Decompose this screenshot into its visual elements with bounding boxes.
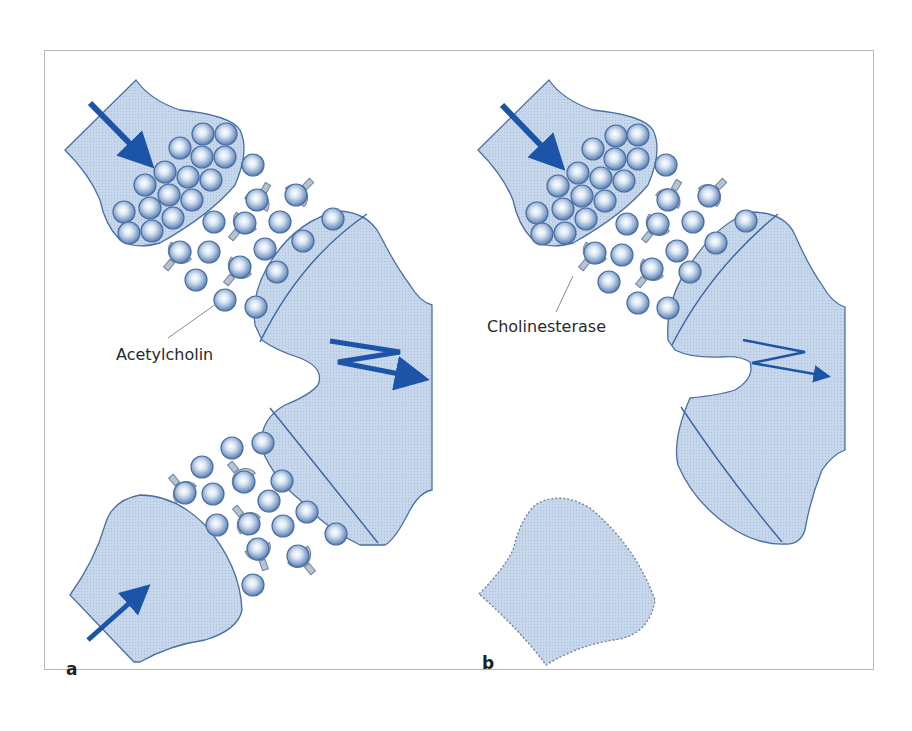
panel-b: Cholinesterase b (478, 80, 845, 673)
panel-letter-a: a (66, 659, 77, 679)
acetylcholin-leader-line (168, 304, 216, 338)
panel-a: Acetylcholin a (65, 80, 432, 679)
synapse-diagram: Acetylcholin a (0, 0, 912, 731)
acetylcholin-label: Acetylcholin (116, 345, 213, 364)
panel-letter-b: b (482, 653, 494, 673)
cholinesterase-leader-line (556, 276, 573, 312)
presynaptic-terminal-inactive-b (479, 498, 655, 665)
cholinesterase-label: Cholinesterase (487, 317, 606, 336)
